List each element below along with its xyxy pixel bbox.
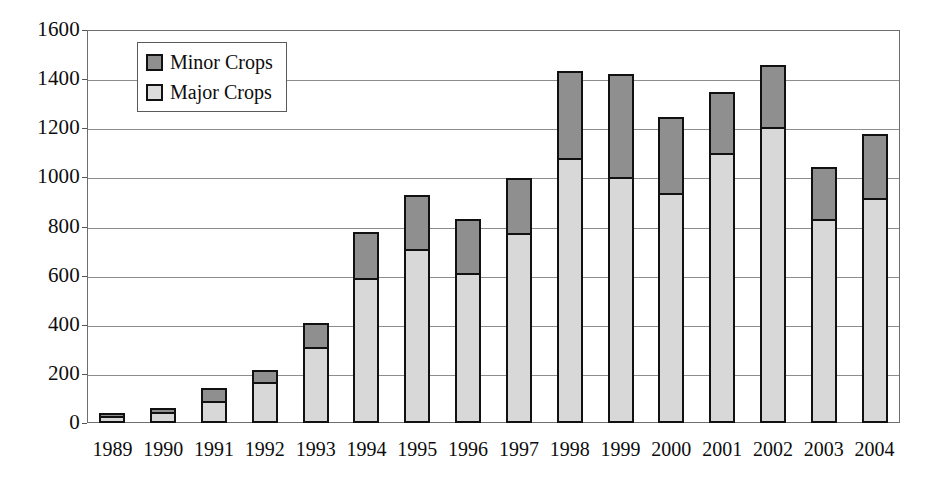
- bar-group: [709, 30, 735, 423]
- bar-group: [99, 30, 125, 423]
- bar-segment-major-crops: [506, 233, 532, 423]
- bar-segment-minor-crops: [557, 71, 583, 159]
- bar-group: [811, 30, 837, 423]
- y-tick-label: 1600: [8, 19, 80, 40]
- bar-segment-major-crops: [353, 278, 379, 423]
- y-tick-label: 1000: [8, 166, 80, 187]
- stacked-bar-chart: 16001400120010008006004002000 1989199019…: [0, 0, 934, 486]
- y-axis: 16001400120010008006004002000: [0, 0, 80, 486]
- y-tick-mark: [82, 276, 87, 277]
- y-tick-label: 600: [8, 265, 80, 286]
- bar-segment-major-crops: [455, 273, 481, 423]
- bar-group: [760, 30, 786, 423]
- bar-segment-minor-crops: [99, 413, 125, 418]
- y-tick-mark: [82, 128, 87, 129]
- legend-label-minor-crops: Minor Crops: [170, 52, 273, 72]
- bar-segment-minor-crops: [608, 74, 634, 180]
- bar-group: [506, 30, 532, 423]
- bar-group: [303, 30, 329, 423]
- bar-segment-major-crops: [862, 198, 888, 423]
- y-tick-mark: [82, 79, 87, 80]
- legend-item-major-crops: Major Crops: [146, 77, 280, 107]
- minor-crops-swatch: [146, 54, 163, 71]
- bar-group: [658, 30, 684, 423]
- bar-group: [557, 30, 583, 423]
- bar-segment-major-crops: [201, 401, 227, 423]
- bar-group: [353, 30, 379, 423]
- y-tick-label: 0: [8, 412, 80, 433]
- y-tick-mark: [82, 423, 87, 424]
- major-crops-swatch: [146, 84, 163, 101]
- y-tick-label: 200: [8, 363, 80, 384]
- legend-item-minor-crops: Minor Crops: [146, 47, 280, 77]
- bar-segment-major-crops: [608, 177, 634, 423]
- bar-segment-minor-crops: [303, 323, 329, 349]
- x-tick-label: 2004: [845, 437, 905, 461]
- y-tick-mark: [82, 374, 87, 375]
- legend-label-major-crops: Major Crops: [170, 82, 272, 102]
- y-tick-mark: [82, 227, 87, 228]
- bar-segment-major-crops: [252, 382, 278, 423]
- bar-segment-minor-crops: [760, 65, 786, 129]
- bar-group: [862, 30, 888, 423]
- bar-segment-minor-crops: [252, 370, 278, 385]
- chart-legend: Minor Crops Major Crops: [137, 42, 287, 112]
- y-tick-label: 1400: [8, 68, 80, 89]
- bar-segment-minor-crops: [455, 219, 481, 275]
- y-tick-label: 1200: [8, 117, 80, 138]
- bar-segment-major-crops: [709, 153, 735, 423]
- bar-group: [404, 30, 430, 423]
- y-tick-label: 800: [8, 216, 80, 237]
- bar-segment-minor-crops: [201, 388, 227, 403]
- bar-segment-major-crops: [557, 158, 583, 423]
- bar-segment-minor-crops: [811, 167, 837, 221]
- bar-segment-minor-crops: [658, 117, 684, 196]
- y-tick-mark: [82, 30, 87, 31]
- bar-segment-major-crops: [303, 347, 329, 423]
- bar-segment-major-crops: [811, 219, 837, 423]
- x-axis: 1989199019911992199319941995199619971998…: [87, 437, 900, 467]
- y-tick-mark: [82, 325, 87, 326]
- bar-segment-minor-crops: [404, 195, 430, 250]
- bar-segment-major-crops: [760, 127, 786, 423]
- bar-group: [455, 30, 481, 423]
- bar-group: [608, 30, 634, 423]
- bar-segment-minor-crops: [353, 232, 379, 280]
- bar-segment-major-crops: [404, 249, 430, 423]
- bar-segment-minor-crops: [709, 92, 735, 155]
- bar-segment-minor-crops: [862, 134, 888, 200]
- y-tick-mark: [82, 177, 87, 178]
- bar-segment-minor-crops: [506, 178, 532, 234]
- bar-segment-minor-crops: [150, 408, 176, 414]
- y-tick-label: 400: [8, 314, 80, 335]
- bar-segment-major-crops: [658, 193, 684, 423]
